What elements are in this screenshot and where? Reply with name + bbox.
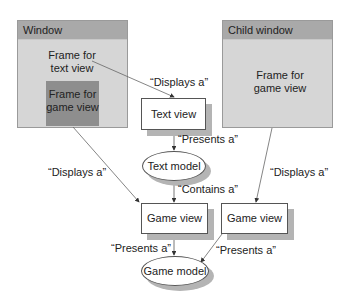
edge-label-displays-game-left: “Displays a” (48, 166, 106, 178)
text-model-node: Text model (142, 151, 206, 181)
game-model-node: Game model (141, 256, 209, 286)
game-view-right-node: Game view (221, 203, 288, 234)
edge-label-presents-game-right: “Presents a” (216, 244, 276, 256)
text-view-label: Text view (151, 108, 196, 120)
game-view-left-node: Game view (141, 203, 208, 234)
game-view-left-label: Game view (147, 212, 202, 224)
game-view-right-label: Game view (227, 212, 282, 224)
edge-label-presents-text: “Presents a” (178, 133, 238, 145)
edge-label-presents-game-left: “Presents a” (111, 242, 171, 254)
edge-label-displays-text: “Displays a” (150, 76, 208, 88)
edge-label-displays-game-right: “Displays a” (270, 166, 328, 178)
edge-label-contains: “Contains a” (178, 183, 238, 195)
game-model-label: Game model (144, 265, 207, 277)
text-view-node: Text view (141, 98, 206, 130)
text-model-label: Text model (147, 160, 200, 172)
